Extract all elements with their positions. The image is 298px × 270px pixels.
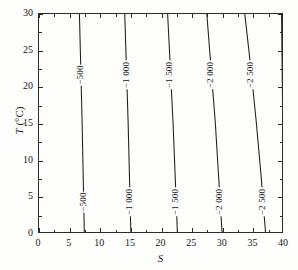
y-axis-tick xyxy=(278,51,282,52)
x-axis-tick-label: 0 xyxy=(36,238,41,248)
y-axis-tick xyxy=(39,87,43,88)
y-axis-tick xyxy=(39,161,43,162)
contour-label: −1 000 xyxy=(121,61,130,90)
y-axis-tick-label: 15 xyxy=(23,118,33,128)
x-axis-tick xyxy=(116,230,117,233)
x-axis-tick xyxy=(223,14,224,18)
plot-area xyxy=(38,13,283,233)
y-axis-label-symbol: T xyxy=(13,128,25,134)
y-axis-tick xyxy=(39,197,43,198)
y-axis-tick xyxy=(39,14,43,15)
x-axis-tick-label: 10 xyxy=(94,238,104,248)
y-axis-tick xyxy=(39,51,43,52)
x-axis-tick-label: 20 xyxy=(156,238,166,248)
contour-label: −1 500 xyxy=(170,188,179,217)
x-axis-tick-label: 35 xyxy=(247,238,257,248)
y-axis-tick xyxy=(280,179,283,180)
contour-label: −500 xyxy=(78,191,87,212)
x-axis-tick-label: 30 xyxy=(217,238,227,248)
x-axis-tick xyxy=(192,14,193,18)
y-axis-tick xyxy=(278,161,282,162)
contour-label: −2 000 xyxy=(206,61,215,90)
x-axis-tick xyxy=(253,228,254,232)
y-axis-tick xyxy=(278,197,282,198)
y-axis-tick xyxy=(280,106,283,107)
x-axis-tick xyxy=(207,14,208,17)
y-axis-tick xyxy=(39,179,42,180)
x-axis-tick xyxy=(162,228,163,232)
x-axis-tick xyxy=(39,228,40,232)
y-axis-tick xyxy=(39,124,43,125)
x-axis-tick xyxy=(177,14,178,17)
x-axis-tick xyxy=(54,230,55,233)
x-axis-tick-label: 25 xyxy=(186,238,196,248)
y-axis-tick xyxy=(280,142,283,143)
y-axis-tick-label: 0 xyxy=(28,228,33,238)
x-axis-label: S xyxy=(158,253,164,264)
x-axis-tick-label: 40 xyxy=(278,238,288,248)
x-axis-tick xyxy=(100,228,101,232)
x-axis-tick xyxy=(70,14,71,18)
x-axis-tick-label: 15 xyxy=(125,238,135,248)
x-axis-tick xyxy=(253,14,254,18)
y-axis-tick-label: 25 xyxy=(23,45,33,55)
y-axis-tick xyxy=(39,142,42,143)
y-axis-tick-label: 5 xyxy=(28,191,33,201)
x-axis-tick xyxy=(85,14,86,17)
y-axis-tick xyxy=(280,216,283,217)
y-axis-tick-label: 20 xyxy=(23,81,33,91)
x-axis-tick xyxy=(238,14,239,17)
contour-label: −500 xyxy=(75,65,84,86)
x-axis-tick xyxy=(192,228,193,232)
y-axis-tick xyxy=(278,124,282,125)
x-axis-tick xyxy=(131,228,132,232)
x-axis-tick xyxy=(100,14,101,18)
x-axis-tick xyxy=(177,230,178,233)
x-axis-tick xyxy=(116,14,117,17)
x-axis-tick xyxy=(162,14,163,18)
y-axis-tick-label: 10 xyxy=(23,155,33,165)
y-axis-tick xyxy=(39,106,42,107)
x-axis-tick xyxy=(146,14,147,17)
contour-label: −2 500 xyxy=(257,188,266,217)
y-axis-tick xyxy=(278,14,282,15)
contour-label: −2 500 xyxy=(245,61,254,90)
x-axis-tick xyxy=(146,230,147,233)
y-axis-label: T (°C) xyxy=(14,104,25,138)
y-axis-tick xyxy=(280,32,283,33)
x-axis-tick xyxy=(269,230,270,233)
y-axis-tick xyxy=(39,32,42,33)
contour-lines-group xyxy=(39,14,283,233)
x-axis-tick-label: 5 xyxy=(66,238,71,248)
contour-label: −1 500 xyxy=(165,61,174,90)
y-axis-tick xyxy=(280,69,283,70)
x-axis-tick xyxy=(131,14,132,18)
x-axis-tick xyxy=(54,14,55,17)
contour-label: −1 000 xyxy=(124,188,133,217)
x-axis-tick xyxy=(70,228,71,232)
x-axis-tick xyxy=(85,230,86,233)
contour-chart-figure: 0510152025303540051015202530−500−500−1 0… xyxy=(0,0,298,270)
x-axis-tick xyxy=(269,14,270,17)
y-axis-tick-label: 30 xyxy=(23,8,33,18)
x-axis-tick xyxy=(207,230,208,233)
x-axis-tick xyxy=(238,230,239,233)
x-axis-tick xyxy=(223,228,224,232)
y-axis-tick xyxy=(278,87,282,88)
y-axis-label-unit: (°C) xyxy=(13,107,25,126)
y-axis-label-spacer xyxy=(13,126,25,129)
contour-label: −2 000 xyxy=(214,188,223,217)
y-axis-tick xyxy=(39,69,42,70)
y-axis-tick xyxy=(39,216,42,217)
